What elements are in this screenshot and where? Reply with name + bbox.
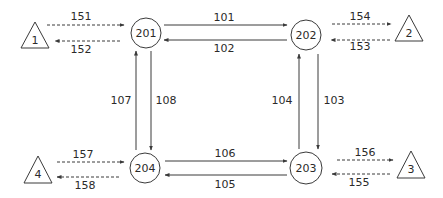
terminal-3: 3 xyxy=(397,151,425,178)
edge-106: 106 xyxy=(165,147,287,161)
edge-101: 101 xyxy=(164,11,287,25)
edge-152: 152 xyxy=(55,41,120,56)
edge-105: 105 xyxy=(165,175,287,191)
edge-154: 154 xyxy=(332,10,391,24)
node-203: 203 xyxy=(290,152,322,184)
edge-label: 156 xyxy=(355,146,376,159)
network-diagram: 101102103104105106107108 151152153154155… xyxy=(0,0,443,198)
edge-label: 106 xyxy=(215,147,236,160)
terminal-4: 4 xyxy=(24,156,52,183)
terminal-2: 2 xyxy=(395,15,423,41)
edge-label: 154 xyxy=(350,10,371,23)
terminal-label: 4 xyxy=(35,168,42,181)
edge-label: 108 xyxy=(156,94,177,107)
edge-153: 153 xyxy=(331,40,390,53)
node-label: 203 xyxy=(296,162,317,175)
node-label: 204 xyxy=(135,162,156,175)
edge-label: 151 xyxy=(71,10,92,23)
edge-label: 152 xyxy=(71,43,92,56)
edge-label: 103 xyxy=(324,94,345,107)
terminal-1: 1 xyxy=(21,22,49,48)
terminal-label: 1 xyxy=(32,34,39,47)
edge-label: 153 xyxy=(350,40,371,53)
edge-103: 103 xyxy=(318,54,345,149)
node-202: 202 xyxy=(291,20,321,50)
node-label: 201 xyxy=(136,27,157,40)
edge-108: 108 xyxy=(151,51,177,150)
edge-label: 105 xyxy=(215,178,236,191)
edge-label: 104 xyxy=(272,94,293,107)
edge-151: 151 xyxy=(47,10,124,25)
node-201: 201 xyxy=(131,18,161,48)
edge-102: 102 xyxy=(164,40,287,55)
edge-107: 107 xyxy=(111,51,137,150)
edge-label: 155 xyxy=(349,176,370,189)
edge-156: 156 xyxy=(337,146,393,160)
edge-label: 107 xyxy=(111,94,132,107)
terminal-label: 2 xyxy=(406,27,413,40)
edge-158: 158 xyxy=(57,177,119,192)
terminal-label: 3 xyxy=(408,163,415,176)
edge-104: 104 xyxy=(272,54,300,149)
edge-label: 157 xyxy=(73,148,94,161)
node-label: 202 xyxy=(296,29,317,42)
edge-157: 157 xyxy=(57,148,124,162)
edge-label: 102 xyxy=(214,42,235,55)
edge-label: 158 xyxy=(75,179,96,192)
edge-155: 155 xyxy=(332,174,390,189)
edge-label: 101 xyxy=(214,11,235,24)
node-204: 204 xyxy=(130,153,160,183)
